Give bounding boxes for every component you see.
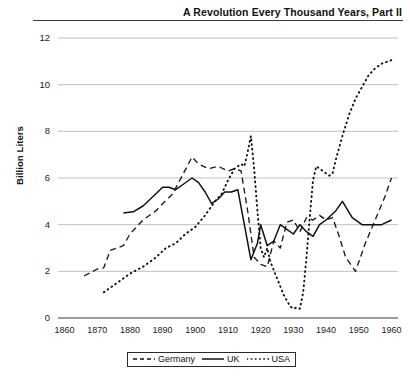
- y-tick-label: 12: [28, 32, 50, 43]
- x-tick-label: 1920: [244, 325, 278, 335]
- y-tick-label: 2: [28, 265, 50, 276]
- legend-swatch-solid-icon: [202, 355, 224, 363]
- legend-item-uk: UK: [202, 354, 240, 364]
- legend-item-usa: USA: [247, 354, 291, 364]
- x-tick-label: 1930: [276, 325, 310, 335]
- chart-canvas: [0, 0, 410, 378]
- gridlines: [58, 38, 398, 318]
- x-tick-label: 1860: [48, 325, 82, 335]
- x-tick-label: 1950: [342, 325, 376, 335]
- x-tick-label: 1870: [80, 325, 114, 335]
- legend-label-uk: UK: [227, 354, 240, 364]
- chart-figure: A Revolution Every Thousand Years, Part …: [0, 0, 410, 378]
- chart-legend: Germany UK USA: [127, 352, 296, 367]
- y-tick-label: 4: [28, 219, 50, 230]
- legend-swatch-dotted-icon: [247, 355, 269, 363]
- y-tick-label: 6: [28, 172, 50, 183]
- legend-label-usa: USA: [272, 354, 291, 364]
- x-tick-label: 1890: [146, 325, 180, 335]
- legend-item-germany: Germany: [133, 354, 195, 364]
- x-tick-label: 1900: [178, 325, 212, 335]
- legend-swatch-dashed-icon: [133, 355, 155, 363]
- series-line-germany: [84, 157, 391, 276]
- y-tick-label: 0: [28, 312, 50, 323]
- y-tick-label: 10: [28, 79, 50, 90]
- y-tick-label: 8: [28, 125, 50, 136]
- x-tick-label: 1940: [309, 325, 343, 335]
- x-tick-label: 1910: [211, 325, 245, 335]
- legend-label-germany: Germany: [158, 354, 195, 364]
- x-tick-label: 1880: [113, 325, 147, 335]
- x-tick-label: 1960: [374, 325, 408, 335]
